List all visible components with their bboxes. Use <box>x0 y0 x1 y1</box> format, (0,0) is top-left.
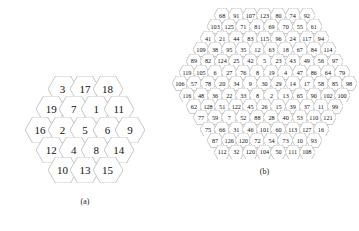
hex-cell-label: 108 <box>299 145 315 160</box>
panel-b-caption: (b) <box>260 167 269 176</box>
panel-a-caption: (a) <box>81 197 90 206</box>
panel-a: 31718197111162569124814101315 (a) <box>0 0 170 231</box>
hex-cell: 108 <box>299 145 315 160</box>
panel-b-hex-grid: 6891107123807492103125718169705561412144… <box>172 8 358 159</box>
hex-cell: 15 <box>93 157 123 183</box>
panel-b: 6891107123807492103125718169705561412144… <box>170 0 359 231</box>
hexagonal-cell-figure: 31718197111162569124814101315 (a) 689110… <box>0 0 359 231</box>
hex-cell-label: 15 <box>93 157 123 183</box>
panel-a-hex-grid: 31718197111162569124814101315 <box>25 76 145 183</box>
